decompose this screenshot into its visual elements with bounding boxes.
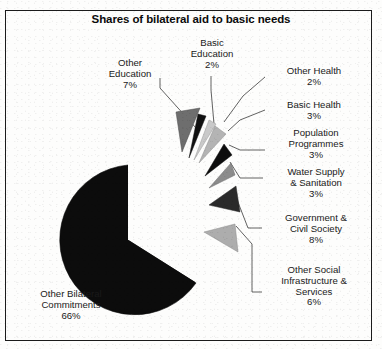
label-line-2: Education: [93, 69, 167, 80]
label-percent: 3%: [268, 111, 360, 122]
slice-label-water-supply-sanitation: Water Supply & Sanitation 3%: [266, 167, 366, 199]
slice-label-other-health: Other Health 2%: [268, 66, 360, 88]
leader-line-other-health: [224, 77, 265, 122]
label-percent: 2%: [175, 60, 249, 71]
leader-line-basic-education: [211, 76, 214, 124]
leader-line-water-supply: [230, 162, 263, 178]
label-line-2: & Sanitation: [266, 178, 366, 189]
slice-label-other-bilateral-commitments: Other Bilateral Commitments 66%: [12, 289, 130, 321]
label-line-2: Programmes: [268, 139, 364, 150]
slice-label-basic-health: Basic Health 3%: [268, 100, 360, 122]
slice-label-government-civil-society: Government & Civil Society 8%: [264, 213, 368, 245]
label-line-2: Commitments: [12, 300, 130, 311]
label-percent: 2%: [268, 77, 360, 88]
leader-line-population-programmes: [229, 145, 265, 150]
label-percent: 3%: [268, 150, 364, 161]
label-percent: 6%: [258, 297, 370, 308]
leader-line-basic-health: [228, 110, 265, 131]
label-line-2: Education: [175, 49, 249, 60]
label-percent: 3%: [266, 189, 366, 200]
label-percent: 8%: [264, 235, 368, 246]
slice-label-population-programmes: Population Programmes 3%: [268, 128, 364, 160]
label-line-2: Civil Society: [264, 224, 368, 235]
pie-slice-other-social-infrastructure[interactable]: [204, 224, 238, 252]
label-line-2: Infrastructure &: [258, 276, 370, 287]
slice-label-other-education: Other Education 7%: [93, 58, 167, 90]
slice-label-other-social-infrastructure: Other Social Infrastructure & Services 6…: [258, 265, 370, 308]
label-percent: 7%: [93, 80, 167, 91]
label-percent: 66%: [12, 311, 130, 322]
slice-label-basic-education: Basic Education 2%: [175, 38, 249, 70]
pie-slice-government-civil-society[interactable]: [209, 186, 240, 212]
